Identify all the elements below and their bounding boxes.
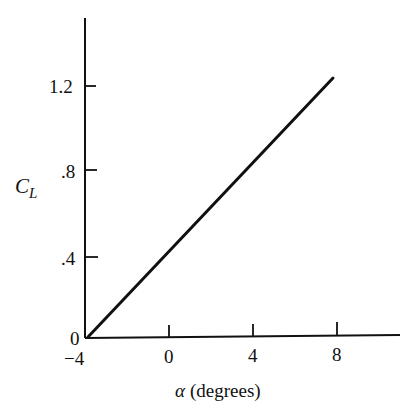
x-ticks <box>169 322 337 337</box>
y-tick-label-0.4: .4 <box>61 248 76 269</box>
lift-curve-line <box>88 78 333 337</box>
y-axis-title: CL <box>15 174 37 201</box>
x-axis <box>85 335 400 338</box>
x-axis-title-symbol: α <box>175 380 186 401</box>
x-tick-label-8: 8 <box>332 344 342 365</box>
y-axis-title-sub: L <box>28 185 37 201</box>
y-axis-title-main: C <box>15 174 30 198</box>
x-tick-label-neg4: −4 <box>64 348 85 369</box>
x-axis-title-unit: (degrees) <box>190 380 261 402</box>
x-tick-label-0: 0 <box>164 346 174 367</box>
y-tick-label-0: 0 <box>70 328 80 349</box>
lift-curve-chart: 1.2 .8 .4 0 −4 0 4 8 CL α(degrees) <box>0 0 415 417</box>
y-tick-label-0.8: .8 <box>61 161 75 182</box>
y-ticks <box>85 86 98 257</box>
y-tick-label-1.2: 1.2 <box>49 76 73 97</box>
x-axis-title: α(degrees) <box>175 380 261 402</box>
x-tick-label-4: 4 <box>248 345 258 366</box>
